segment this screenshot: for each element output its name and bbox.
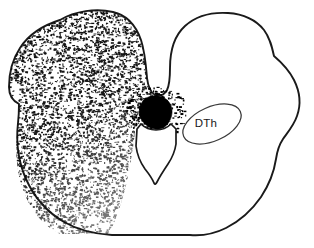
figure-canvas: DTh <box>0 0 314 248</box>
cross-section-drawing: DTh <box>0 0 314 248</box>
dorsal-thalamus-label: DTh <box>195 117 217 129</box>
